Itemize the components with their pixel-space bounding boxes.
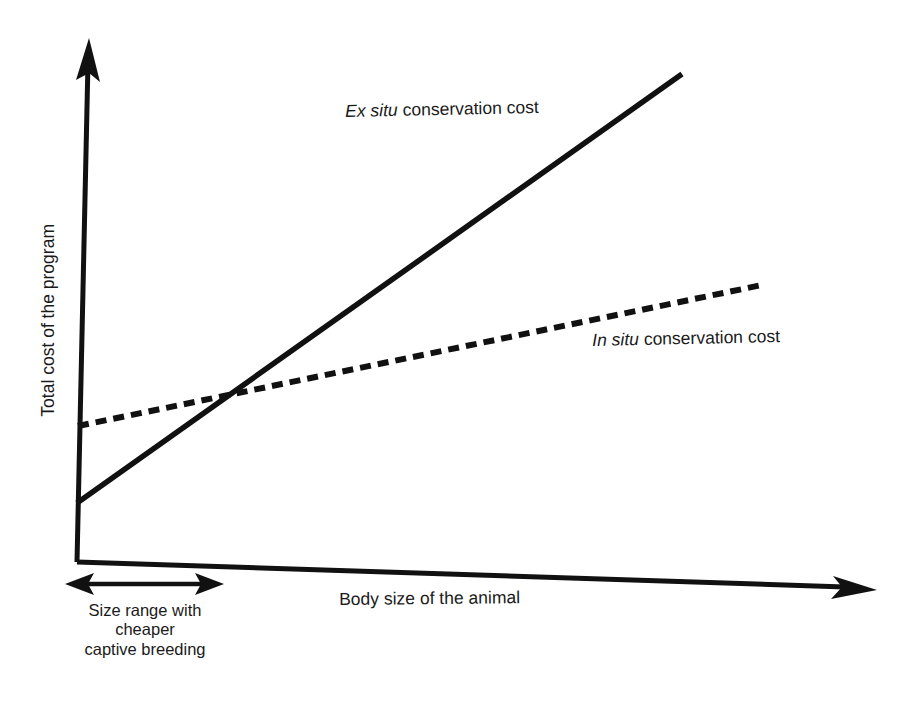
size-range-double-arrow [65,573,224,595]
series-label-ex-situ-italic: Ex situ [345,100,398,121]
y-axis-label: Total cost of the program [38,190,59,450]
series-label-in-situ: In situ conservation cost [592,326,780,351]
size-range-caption-line-2: cheaper [36,620,254,639]
series-line-in-situ [78,285,762,426]
series-label-in-situ-italic: In situ [592,329,639,350]
size-range-caption: Size range with cheaper captive breeding [36,601,254,659]
y-axis [76,38,100,562]
series-line-ex-situ [77,74,682,503]
size-range-caption-line-1: Size range with [36,601,254,620]
size-range-caption-line-3: captive breeding [36,640,254,659]
series-label-in-situ-regular: conservation cost [639,326,780,349]
y-axis-line [77,62,88,562]
series-label-ex-situ: Ex situ conservation cost [345,97,539,122]
x-axis-label: Body size of the animal [339,587,520,610]
series-label-ex-situ-regular: conservation cost [398,97,539,120]
figure-root: Ex situ conservation cost In situ conser… [0,0,913,719]
